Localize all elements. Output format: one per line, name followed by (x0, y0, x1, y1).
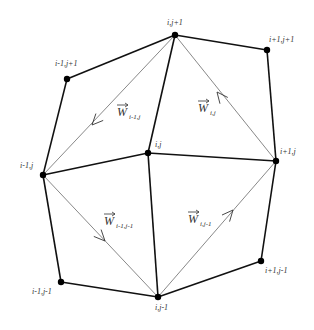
diagonal-line (175, 35, 276, 161)
direction-arrow-icon (222, 210, 233, 222)
node-i1j1 (264, 47, 270, 53)
node-label: i-1,j (20, 161, 34, 170)
vector-label: W (188, 212, 199, 226)
cell-edge (148, 153, 276, 161)
node-label: i+1,j+1 (269, 35, 294, 44)
vector-subscript: i,j-1 (200, 220, 211, 228)
node-label: i+1,j (280, 147, 297, 156)
vector-subscript: i,j (210, 109, 216, 117)
node-ij1 (172, 32, 178, 38)
direction-arrow-icon (92, 114, 103, 125)
node-i1j (273, 158, 279, 164)
cell-edge (67, 35, 175, 79)
node-label: i+1,j-1 (265, 266, 288, 275)
node-label: i,j+1 (167, 18, 183, 27)
cell-edge (267, 50, 276, 161)
node-im1j1 (64, 76, 70, 82)
cell-edge (175, 35, 267, 50)
node-label: i,j (155, 140, 162, 149)
node-label: i,j-1 (155, 303, 168, 312)
vector-labels: Wi-1,jWi,jWi-1,j-1Wi,j-1 (104, 99, 216, 230)
mesh-diagram: i,j+1i+1,j+1i-1,j+1i,ji-1,ji+1,ji-1,j-1i… (0, 0, 314, 330)
node-i1jm1 (258, 258, 264, 264)
cell-edge (43, 153, 148, 175)
cell-edge (61, 282, 158, 297)
cell-edge (148, 153, 158, 297)
vector-label: W (198, 101, 209, 115)
vector-subscript: i-1,j (129, 113, 141, 121)
node-im1j (40, 172, 46, 178)
node-ij (145, 150, 151, 156)
cell-edge (43, 79, 67, 175)
grid-nodes (40, 32, 279, 300)
vector-label: W (104, 214, 115, 228)
vector-label: W (117, 105, 128, 119)
vector-subscript: i-1,j-1 (116, 222, 133, 230)
cell-edge (148, 35, 175, 153)
node-labels: i,j+1i+1,j+1i-1,j+1i,ji-1,ji+1,ji-1,j-1i… (20, 18, 297, 312)
cell-edges (43, 35, 276, 297)
node-label: i-1,j+1 (55, 59, 78, 68)
node-label: i-1,j-1 (32, 287, 52, 296)
node-ijm1 (155, 294, 161, 300)
node-im1jm1 (58, 279, 64, 285)
